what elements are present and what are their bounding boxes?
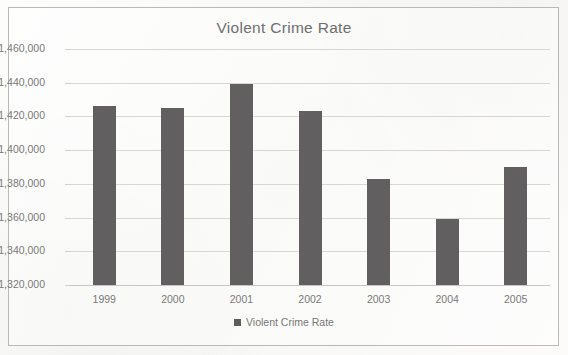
bar (161, 108, 184, 285)
y-axis-tick-label: 1,420,000 (0, 109, 45, 121)
y-axis-tick-mark (65, 218, 70, 219)
y-axis-tick-mark (65, 150, 70, 151)
x-axis-tick-label: 2002 (276, 293, 344, 305)
chart-title: Violent Crime Rate (0, 19, 568, 37)
x-axis-tick-label: 2004 (413, 293, 481, 305)
bar (436, 219, 459, 285)
gridline (70, 285, 550, 286)
bar (367, 179, 390, 285)
x-axis-tick-label: 1999 (70, 293, 138, 305)
legend-label: Violent Crime Rate (246, 316, 334, 328)
x-axis-tick-label: 2000 (139, 293, 207, 305)
y-axis-tick-label: 1,400,000 (0, 143, 45, 155)
plot-area: 1,460,0001,440,0001,420,0001,400,0001,38… (70, 49, 550, 285)
x-axis-tick-label: 2005 (482, 293, 550, 305)
y-axis-tick-mark (65, 116, 70, 117)
y-axis-tick-mark (65, 251, 70, 252)
legend-swatch-icon (234, 319, 241, 326)
y-axis-tick-label: 1,460,000 (0, 42, 45, 54)
bar (504, 167, 527, 285)
gridline (70, 83, 550, 84)
y-axis-tick-label: 1,320,000 (0, 278, 45, 290)
y-axis-tick-label: 1,440,000 (0, 76, 45, 88)
y-axis-tick-label: 1,360,000 (0, 211, 45, 223)
chart-screenshot: Violent Crime Rate 1,460,0001,440,0001,4… (0, 0, 568, 355)
y-axis-tick-mark (65, 285, 70, 286)
y-axis-tick-label: 1,340,000 (0, 244, 45, 256)
x-axis-tick-label: 2001 (207, 293, 275, 305)
x-axis-tick-label: 2003 (345, 293, 413, 305)
bar (230, 84, 253, 285)
bar (93, 106, 116, 285)
chart-legend: Violent Crime Rate (0, 316, 568, 328)
gridline (70, 49, 550, 50)
y-axis-tick-mark (65, 184, 70, 185)
bar (299, 111, 322, 285)
y-axis-tick-label: 1,380,000 (0, 177, 45, 189)
y-axis-tick-mark (65, 49, 70, 50)
y-axis-tick-mark (65, 83, 70, 84)
